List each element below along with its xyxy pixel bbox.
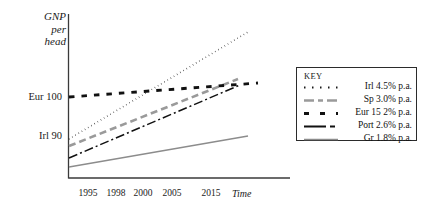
legend-swatch-irl [303, 82, 339, 93]
legend-title: KEY [304, 71, 322, 81]
legend-label-port: Port 2.6% p.a. [358, 120, 412, 130]
legend-label-irl: Irl 4.5% p.a. [365, 81, 412, 91]
series-line-gr [69, 136, 248, 167]
legend-row-sp: Sp 3.0% p.a. [297, 95, 418, 106]
legend-swatch-gr [303, 134, 339, 145]
legend-row-irl: Irl 4.5% p.a. [297, 82, 418, 93]
series-group [69, 32, 258, 167]
x-tick-label-2005: 2005 [163, 188, 182, 198]
x-tick-label-1998: 1998 [107, 188, 126, 198]
x-axis-title: Time [232, 188, 251, 199]
chart-figure: GNP per head Eur 100 Irl 90 1995 1998 20… [0, 0, 426, 220]
series-line-sp [69, 79, 238, 146]
legend-swatch-eur15 [303, 108, 339, 119]
legend-row-gr: Gr 1.8% p.a. [297, 134, 418, 145]
legend-row-eur15: Eur 15 2% p.a. [297, 108, 418, 119]
legend-row-port: Port 2.6% p.a. [297, 121, 418, 132]
legend-label-sp: Sp 3.0% p.a. [364, 94, 412, 104]
legend-label-gr: Gr 1.8% p.a. [364, 133, 412, 143]
x-tick-label-1995: 1995 [79, 188, 98, 198]
legend-label-eur15: Eur 15 2% p.a. [355, 107, 412, 117]
legend-swatch-port [303, 121, 339, 132]
legend-box: KEY Irl 4.5% p.a. Sp 3.0% p.a. Eur 15 2%… [296, 67, 417, 141]
x-tick-label-2015: 2015 [202, 188, 221, 198]
legend-swatch-sp [303, 95, 339, 106]
x-tick-label-2000: 2000 [134, 188, 153, 198]
